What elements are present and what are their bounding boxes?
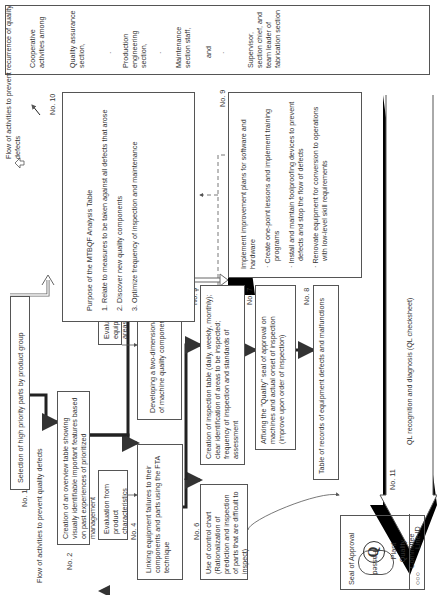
- flow-diagram: Cooperative activities among Quality ass…: [0, 0, 437, 595]
- seal-org: Plant Quality Committee: [389, 531, 416, 571]
- step-1-box: Selection of high priority parts by prod…: [10, 296, 30, 490]
- legend-recurrence: Flow of activities to prevent recurrence…: [4, 0, 22, 175]
- step-4-input-box: Evaluation from product characteristics: [98, 470, 128, 540]
- seal-of-approval: Seal of Approval Q Plant Quality Committ…: [340, 515, 425, 590]
- cooperative-title: Cooperative activities among: [28, 8, 46, 68]
- seal-line-id: Line ID: [413, 526, 422, 549]
- step-number: No. 1: [20, 490, 29, 507]
- step-10-title: Purpose of the MTBQF Analysis Table: [85, 103, 94, 311]
- cooperative-group-production: Production engineering section,: [121, 8, 148, 68]
- step-7-box: Affixing the "Quality" seal of approval …: [255, 285, 296, 450]
- step-number: No. 7: [245, 288, 254, 305]
- step-9-box: Implement improvement plans for software…: [228, 92, 362, 278]
- step-10-box: Purpose of the MTBQF Analysis Table 1.Re…: [62, 92, 195, 322]
- separator: ·: [219, 52, 228, 54]
- step-number: No. 10: [48, 94, 57, 115]
- step-number: No. 11: [388, 469, 397, 490]
- step-8-box: Table of records of equipment defects an…: [313, 285, 339, 480]
- separator: ·: [106, 52, 115, 54]
- step-number: No. 9: [218, 90, 227, 107]
- q-seal-icon: Q: [363, 541, 385, 563]
- step-number: No. 2: [65, 553, 74, 570]
- step-4-box: Linking equipment failures to their comp…: [137, 444, 183, 580]
- step-2-box: Creation of an overview table showing vi…: [57, 391, 90, 545]
- step-9-title: Implement improvement plans for software…: [239, 101, 257, 269]
- step-11-text: QL recognition and diagnosis (QL checksh…: [405, 298, 414, 445]
- step-10-item: 2.Discover new quality components: [115, 103, 124, 311]
- step-9-bullet: · Install and maintain foolproofing devi…: [287, 101, 305, 269]
- legend-prevent: Flow of activities to prevent quality de…: [35, 448, 44, 583]
- step-9-bullet: · Create one-point lessons and implement…: [263, 101, 281, 269]
- cooperative-group-fabrication: Supervisor, section chief, and team lead…: [246, 8, 282, 68]
- seal-circles: ○○○: [413, 572, 422, 585]
- step-10-item: 1.Relate to measures to be taken against…: [100, 103, 109, 311]
- step-5-box: Creation of inspection table (daily, wee…: [200, 285, 245, 465]
- step-10-item: 3.Optimize frequency of inspection and m…: [130, 103, 139, 311]
- separator: ·: [156, 52, 165, 54]
- cooperative-box: Cooperative activities among Quality ass…: [5, 5, 430, 75]
- cooperative-group-qa: Quality assurance section,: [68, 8, 86, 68]
- step-6-box: Use of control chart (Rationalization of…: [200, 484, 248, 580]
- cooperative-group-maintenance: Maintenance section staff,: [174, 8, 192, 68]
- cooperative-and: and: [204, 46, 213, 58]
- step-number: No. 8: [302, 288, 311, 305]
- seal-title: Seal of Approval: [347, 533, 356, 585]
- step-9-bullet: · Renovate equipment for conversion to o…: [311, 101, 329, 269]
